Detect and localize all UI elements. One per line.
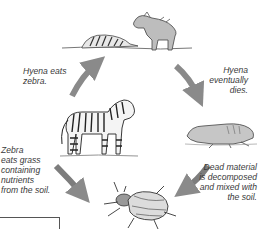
arrow-hyena-to-dead-icon xyxy=(176,66,198,96)
answer-box-outline xyxy=(0,217,60,229)
arrow-zebra-to-hyena-icon xyxy=(72,64,96,96)
label-zebra-eats-grass: Zebra eats grass containing nutrients fr… xyxy=(1,145,50,195)
label-hyena-dies: Hyena eventually dies. xyxy=(209,65,248,95)
arrow-soil-to-zebra-icon xyxy=(56,166,82,194)
label-hyena-eats-zebra: Hyena eats zebra. xyxy=(23,66,66,86)
label-dead-material: Dead material is decomposed and mixed wi… xyxy=(199,162,257,202)
